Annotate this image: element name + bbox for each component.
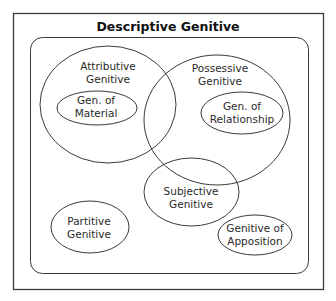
relationship-label-line2: Relationship [210, 113, 275, 125]
possessive-label-line2: Genitive [198, 75, 242, 87]
apposition-label-line1: Genitive of [226, 222, 284, 234]
partitive-genitive-set [51, 201, 129, 253]
relationship-label-line1: Gen. of [223, 100, 261, 112]
attributive-label-line1: Attributive [80, 60, 136, 72]
material-label-line1: Gen. of [77, 94, 115, 106]
partitive-label-line2: Genitive [67, 228, 111, 240]
material-label-line2: Material [75, 107, 118, 119]
possessive-label-line1: Possessive [192, 62, 248, 74]
genitive-venn-diagram: Descriptive Genitive Attributive Genitiv… [0, 0, 336, 301]
subjective-label-line2: Genitive [169, 198, 213, 210]
apposition-label-line2: Apposition [227, 235, 282, 247]
diagram-title: Descriptive Genitive [96, 19, 239, 34]
attributive-label-line2: Genitive [86, 73, 130, 85]
partitive-label-line1: Partitive [67, 215, 110, 227]
outer-frame [14, 14, 324, 290]
subjective-label-line1: Subjective [164, 185, 219, 197]
